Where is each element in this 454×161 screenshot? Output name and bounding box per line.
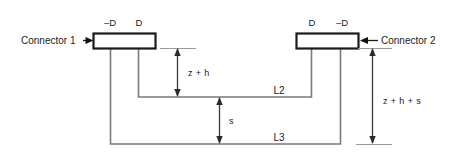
- connector-2-box: [297, 34, 359, 49]
- loop-l3-label: L3: [273, 132, 285, 143]
- connector-loop-diagram: –D D D –D Connector 1 Connector 2 z + h …: [0, 0, 454, 161]
- connector-1-terminal-left-label: –D: [104, 17, 116, 28]
- dim-z-h-arrow-up-icon: [174, 48, 180, 56]
- connector-2-terminal-right-label: –D: [336, 17, 348, 28]
- connector-2-label: Connector 2: [381, 35, 436, 46]
- connector-1-label: Connector 1: [21, 35, 76, 46]
- dim-s-arrow-down-icon: [216, 136, 222, 144]
- wire-loop-l2: [139, 48, 312, 97]
- connector-1-arrow-icon: [86, 37, 94, 44]
- dim-z-h-s-label: z + h + s: [383, 96, 421, 106]
- dim-z-h-label: z + h: [188, 68, 210, 78]
- wire-loop-l3: [111, 48, 341, 144]
- diagram-canvas: –D D D –D Connector 1 Connector 2 z + h …: [0, 0, 454, 161]
- loop-l2-label: L2: [273, 85, 285, 96]
- dim-z-h-arrow-down-icon: [174, 89, 180, 97]
- dim-z-h-s-arrow-up-icon: [369, 48, 375, 56]
- connector-1-terminal-right-label: D: [136, 17, 143, 28]
- connector-2-terminal-left-label: D: [309, 17, 316, 28]
- dim-s-arrow-up-icon: [216, 97, 222, 105]
- connector-2-arrow-icon: [360, 37, 368, 44]
- dim-z-h-s-arrow-down-icon: [369, 136, 375, 144]
- connector-1-box: [94, 34, 156, 49]
- dim-s-label: s: [229, 116, 234, 126]
